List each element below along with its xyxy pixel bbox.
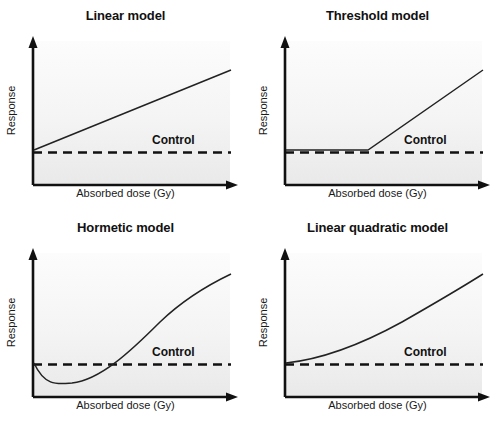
x-axis-label-linear-quadratic-model: Absorbed dose (Gy) xyxy=(252,399,503,412)
plot-background xyxy=(285,41,482,185)
plot-background xyxy=(285,253,482,397)
plot-background xyxy=(33,41,230,185)
y-axis-label-hormetic-model: Response xyxy=(5,288,18,358)
panel-linear-quadratic-model: Linear quadratic model Control Absorbed … xyxy=(252,212,503,424)
plot-background xyxy=(33,253,230,397)
panel-linear-model: Linear model Control Absorbed dose (Gy xyxy=(0,0,251,212)
plot-linear-quadratic-model xyxy=(252,212,503,424)
control-label-linear-model: Control xyxy=(152,133,195,147)
plot-hormetic-model xyxy=(0,212,251,424)
plot-threshold-model xyxy=(252,0,503,212)
control-label-threshold-model: Control xyxy=(404,133,447,147)
y-axis-label-threshold-model: Response xyxy=(257,76,270,146)
x-axis-label-hormetic-model: Absorbed dose (Gy) xyxy=(0,399,251,412)
y-axis-label-linear-quadratic-model: Response xyxy=(257,288,270,358)
dose-response-models-figure: Linear model Control Absorbed dose (Gy xyxy=(0,0,503,425)
plot-linear-model xyxy=(0,0,251,212)
control-label-linear-quadratic-model: Control xyxy=(404,345,447,359)
panel-hormetic-model: Hormetic model Control Absorbed dose (Gy… xyxy=(0,212,251,424)
x-axis-label-threshold-model: Absorbed dose (Gy) xyxy=(252,187,503,200)
control-label-hormetic-model: Control xyxy=(152,345,195,359)
y-axis-label-linear-model: Response xyxy=(5,76,18,146)
x-axis-label-linear-model: Absorbed dose (Gy) xyxy=(0,187,251,200)
panel-threshold-model: Threshold model Control Absorbed dose (G… xyxy=(252,0,503,212)
